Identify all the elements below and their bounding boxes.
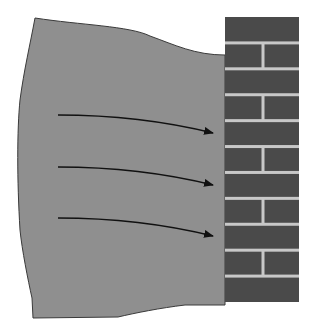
mortar-joint — [262, 250, 265, 276]
mortar-joint — [262, 198, 265, 224]
mortar-joint — [262, 95, 265, 121]
mortar-joint — [262, 147, 265, 173]
gray-mass — [18, 18, 225, 318]
brick-wall-icon — [225, 17, 299, 302]
force-on-wall-diagram — [0, 0, 314, 331]
gray-mass-shape — [18, 18, 225, 318]
mortar-joint — [262, 43, 265, 69]
